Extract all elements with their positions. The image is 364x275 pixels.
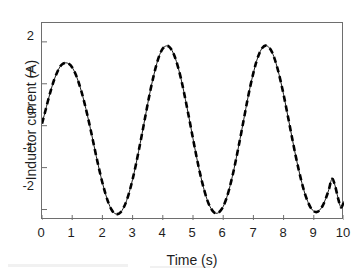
x-tick-label-7: 7 [249,226,256,239]
plot-svg [42,23,344,220]
x-tick-label-5: 5 [188,226,195,239]
x-tick-marks [42,215,344,220]
x-tick-label-3: 3 [128,226,135,239]
y-tick-label-neg1: -1 [10,141,34,154]
x-tick-label-8: 8 [279,226,286,239]
figure-canvas: Inductor current (A) 2 1 0 -1 -2 0 1 2 3… [0,0,364,275]
y-tick-label-2: 2 [14,29,34,42]
y-tick-marks [42,42,47,210]
series-line-solid [42,46,344,215]
series-line-dashed [42,46,344,215]
x-tick-label-10: 10 [336,226,350,239]
y-tick-label-0: 0 [14,104,34,117]
x-tick-label-2: 2 [98,226,105,239]
y-tick-label-neg2: -2 [10,179,34,192]
x-tick-label-0: 0 [37,226,44,239]
x-tick-label-1: 1 [67,226,74,239]
x-tick-label-4: 4 [158,226,165,239]
x-axis-title: Time (s) [41,252,343,268]
x-tick-label-6: 6 [218,226,225,239]
y-tick-label-1: 1 [14,66,34,79]
x-tick-label-9: 9 [309,226,316,239]
plot-area [41,22,343,219]
